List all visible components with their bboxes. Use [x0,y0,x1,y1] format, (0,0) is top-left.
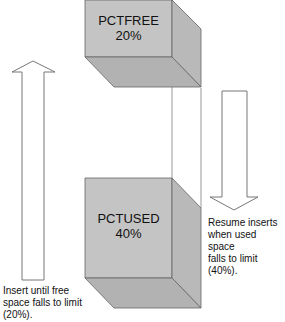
pctused-title: PCTUSED [85,211,172,226]
up-arrow-icon [12,61,55,280]
down-arrow-caption: Resume inserts when used space falls to … [208,217,285,277]
pctused-block [85,178,201,308]
caption-line: Resume inserts [208,217,285,229]
pctused-label: PCTUSED 40% [85,211,172,241]
up-arrow-caption: Insert until free space falls to limit (… [3,285,82,321]
pctfree-title: PCTFREE [85,13,172,28]
caption-line: falls to limit (40%). [208,253,285,277]
caption-line: when used space [208,229,285,253]
pctfree-value: 20% [85,28,172,43]
caption-line: Insert until free [3,285,82,297]
caption-line: space falls to limit [3,297,82,309]
pctfree-label: PCTFREE 20% [85,13,172,43]
down-arrow-icon [210,91,258,210]
caption-line: (20%). [3,309,82,321]
pctused-value: 40% [85,226,172,241]
